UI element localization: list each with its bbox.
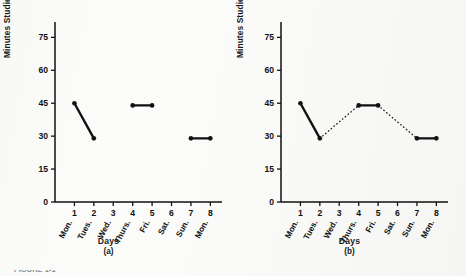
svg-text:8: 8 bbox=[208, 208, 213, 218]
svg-text:Fri.: Fri. bbox=[138, 219, 152, 234]
svg-text:5: 5 bbox=[150, 208, 155, 218]
svg-text:15: 15 bbox=[38, 164, 48, 174]
svg-text:0: 0 bbox=[269, 197, 274, 207]
svg-text:30: 30 bbox=[264, 131, 274, 141]
svg-text:2: 2 bbox=[317, 208, 322, 218]
svg-text:Sat.: Sat. bbox=[382, 219, 397, 236]
svg-text:45: 45 bbox=[38, 98, 48, 108]
chart-panel-b: Minutes Studied 015304560751Mon.2Tues.3W… bbox=[233, 0, 466, 258]
svg-text:45: 45 bbox=[264, 98, 274, 108]
svg-text:15: 15 bbox=[264, 164, 274, 174]
svg-text:60: 60 bbox=[264, 65, 274, 75]
panel-label-b: (b) bbox=[233, 247, 466, 256]
svg-text:30: 30 bbox=[38, 131, 48, 141]
svg-text:1: 1 bbox=[72, 208, 77, 218]
cropped-caption: FIGURE 1-1 bbox=[14, 270, 214, 276]
plot-area-b: 015304560751Mon.2Tues.3Wed.4Thurs.5Fri.6… bbox=[233, 0, 466, 258]
svg-text:75: 75 bbox=[264, 32, 274, 42]
svg-text:4: 4 bbox=[356, 208, 361, 218]
figure-page: Minutes Studied 015304560751Mon.2Tues.3W… bbox=[0, 0, 466, 276]
svg-text:6: 6 bbox=[395, 208, 400, 218]
svg-text:3: 3 bbox=[111, 208, 116, 218]
svg-text:Sat.: Sat. bbox=[156, 219, 171, 236]
svg-text:8: 8 bbox=[434, 208, 439, 218]
svg-text:1: 1 bbox=[298, 208, 303, 218]
caption-text: FIGURE 1-1 bbox=[14, 270, 56, 274]
x-axis-title-b: Days bbox=[233, 236, 466, 246]
svg-text:3: 3 bbox=[337, 208, 342, 218]
x-axis-title-a: Days bbox=[0, 236, 225, 246]
chart-panel-a: Minutes Studied 015304560751Mon.2Tues.3W… bbox=[0, 0, 233, 258]
svg-text:6: 6 bbox=[169, 208, 174, 218]
svg-text:75: 75 bbox=[38, 32, 48, 42]
svg-text:Fri.: Fri. bbox=[364, 219, 378, 234]
svg-text:4: 4 bbox=[130, 208, 135, 218]
plot-area-a: 015304560751Mon.2Tues.3Wed.4Thurs.5Fri.6… bbox=[0, 0, 233, 258]
svg-text:5: 5 bbox=[376, 208, 381, 218]
svg-text:0: 0 bbox=[43, 197, 48, 207]
svg-text:2: 2 bbox=[91, 208, 96, 218]
svg-text:7: 7 bbox=[415, 208, 420, 218]
svg-text:7: 7 bbox=[189, 208, 194, 218]
svg-text:60: 60 bbox=[38, 65, 48, 75]
panel-label-a: (a) bbox=[0, 247, 225, 256]
